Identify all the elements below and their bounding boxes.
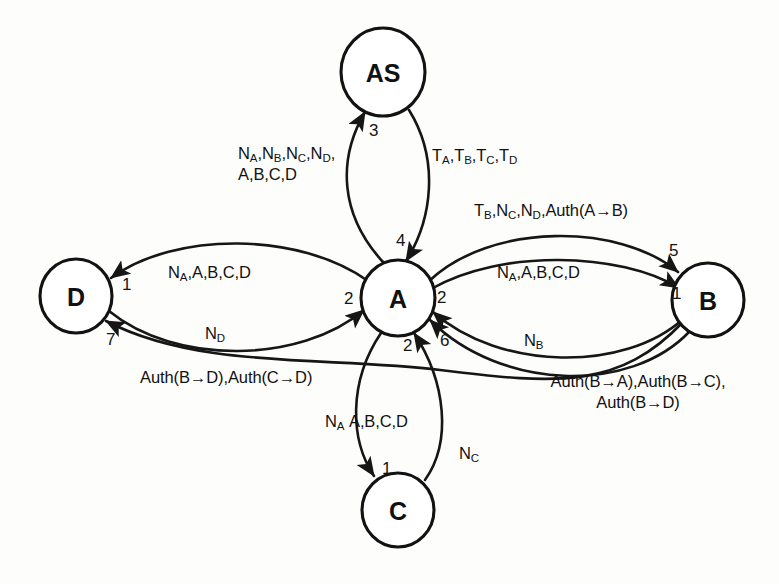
node-as-label: AS — [366, 59, 401, 87]
edge-label-a-to-as-line2: A,B,C,D — [238, 164, 335, 185]
seq-number-d-to-a: 2 — [344, 290, 353, 307]
edge-label-d-to-a: ND — [205, 323, 225, 344]
edge-label-a-to-as-line1: NA,NB,NC,ND, — [238, 143, 335, 164]
seq-number-b-to-a-6: 6 — [440, 332, 449, 349]
edge-c-to-a — [414, 333, 442, 480]
edge-label-b-to-a-6-line1: Auth(B→A),Auth(B→C), — [516, 371, 760, 392]
edge-label-as-to-a: TA,TB,TC,TD — [432, 145, 517, 166]
node-a[interactable]: A — [361, 260, 435, 336]
edge-label-a-to-as: NA,NB,NC,ND, A,B,C,D — [238, 143, 335, 185]
seq-number-b-to-a-2: 2 — [437, 289, 446, 306]
node-as[interactable]: AS — [341, 28, 425, 116]
edge-d-to-a — [109, 310, 364, 351]
edge-label-a-to-b-1: NA,A,B,C,D — [497, 262, 580, 283]
node-d[interactable]: D — [40, 259, 112, 333]
seq-number-a-to-d: 1 — [122, 276, 131, 293]
edge-as-to-a — [406, 110, 429, 261]
protocol-flow-svg: AS A D B C — [0, 0, 779, 584]
edge-label-b-to-a-6: Auth(B→A),Auth(B→C), Auth(B→D) — [516, 371, 760, 413]
edge-label-b-to-d: Auth(B→D),Auth(C→D) — [140, 367, 312, 388]
edge-label-a-to-b-5: TB,NC,ND,Auth(A→B) — [474, 200, 628, 221]
seq-number-a-to-as: 3 — [369, 122, 378, 139]
seq-number-a-to-b-1: 1 — [672, 285, 681, 302]
seq-number-as-to-a: 4 — [396, 232, 405, 249]
edge-label-b-to-a-6-line2: Auth(B→D) — [516, 392, 760, 413]
edge-label-a-to-d: NA,A,B,C,D — [168, 262, 251, 283]
node-a-label: A — [389, 285, 407, 313]
seq-number-a-to-c: 1 — [382, 460, 391, 477]
seq-number-c-to-a: 2 — [403, 337, 412, 354]
seq-number-b-to-d: 7 — [106, 331, 115, 348]
seq-number-a-to-b-5: 5 — [669, 242, 678, 259]
diagram-canvas: AS A D B C 3 4 1 2 7 1 5 2 6 1 2 NA,NB,N… — [0, 0, 779, 584]
node-b-label: B — [699, 287, 717, 315]
node-c[interactable]: C — [362, 473, 434, 547]
edge-a-to-c — [356, 333, 381, 476]
node-d-label: D — [67, 283, 85, 311]
edge-label-c-to-a: NC — [459, 443, 479, 464]
edge-label-b-to-a-2: NB — [524, 330, 544, 351]
node-c-label: C — [389, 497, 407, 525]
edge-label-a-to-c: NA A,B,C,D — [325, 411, 408, 432]
node-b[interactable]: B — [672, 263, 744, 337]
edge-b-to-a-6 — [430, 320, 690, 376]
